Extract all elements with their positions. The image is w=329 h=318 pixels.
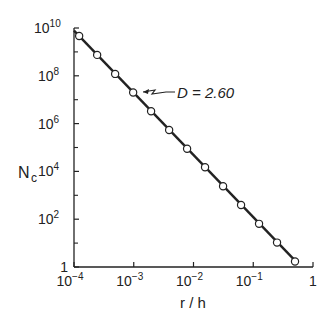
- tick-label: 108: [38, 66, 60, 84]
- x-axis-label: r / h: [180, 294, 206, 311]
- annotation-label: D = 2.60: [177, 84, 235, 101]
- annotation: D = 2.60: [143, 84, 235, 101]
- tick-label: 102: [38, 209, 60, 227]
- y-axis-label-main: N: [18, 164, 30, 181]
- data-point: [273, 239, 280, 246]
- data-point: [94, 51, 101, 58]
- data-point: [112, 70, 119, 77]
- y-axis-label-sub: c: [31, 171, 37, 185]
- data-point: [291, 258, 298, 265]
- tick-label: 10−2: [176, 271, 203, 289]
- tick-label: 10−1: [236, 271, 263, 289]
- data-point: [76, 32, 83, 39]
- data-point: [255, 220, 262, 227]
- data-point: [130, 89, 137, 96]
- axes: 10−410−310−210−1111021041061081010: [34, 18, 317, 289]
- tick-label: 106: [38, 114, 60, 132]
- data-point: [237, 201, 244, 208]
- tick-label: 104: [38, 161, 60, 179]
- tick-label: 1010: [34, 18, 61, 36]
- data-point: [147, 108, 154, 115]
- tick-label: 10−3: [116, 271, 143, 289]
- tick-label: 1: [60, 259, 68, 275]
- data-point: [201, 164, 208, 171]
- data-point: [219, 183, 226, 190]
- y-axis-label: N c: [18, 164, 37, 185]
- data-point: [183, 145, 190, 152]
- tick-label: 1: [309, 273, 317, 289]
- data-point: [166, 126, 173, 133]
- log-log-chart: 10−410−310−210−1111021041061081010 D = 2…: [0, 0, 329, 318]
